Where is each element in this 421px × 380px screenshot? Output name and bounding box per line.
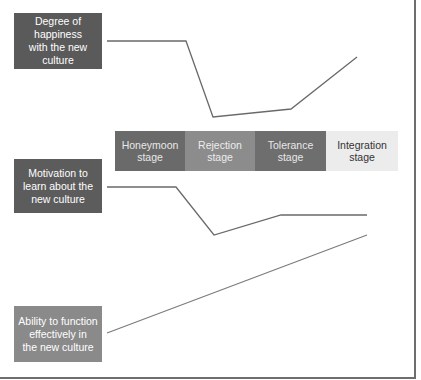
motivation-curve: [107, 187, 367, 235]
happiness-curve: [107, 41, 357, 117]
ability-curve: [107, 235, 367, 333]
curves-layer: [0, 0, 421, 380]
